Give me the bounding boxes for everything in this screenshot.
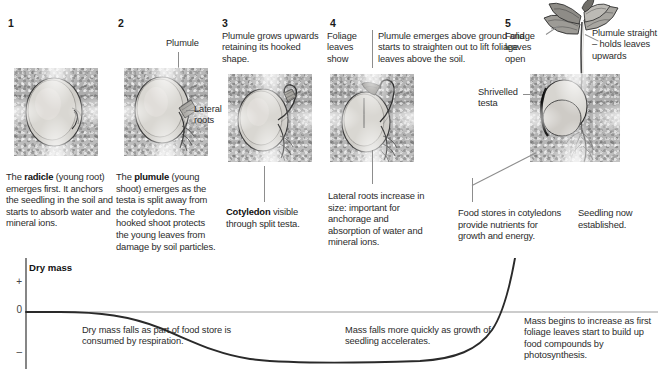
germination-diagram: 1 The radicle (young root) emerges first… — [0, 0, 658, 369]
stage-1-illustration — [14, 68, 98, 156]
callout-lateral-roots: Lateral roots — [194, 104, 226, 127]
dry-mass-chart: Dry mass + 0 – Dry mass falls as part of… — [0, 258, 658, 369]
callout-shrivelled-testa: Shrivelled testa — [478, 87, 524, 110]
callout-plumule-straight: Plumule straight – holds leaves upwards — [592, 28, 658, 62]
stage-1-description: The radicle (young root) emerges first. … — [6, 171, 114, 229]
stage-4-illustration — [330, 74, 414, 162]
leader-line-food-stores — [472, 152, 537, 186]
stage-4-description: Lateral roots increase in size: importan… — [328, 190, 432, 248]
stage-3-header: Plumule grows upwards retaining its hook… — [222, 31, 322, 65]
stage-5-description: Food stores in cotyledons provide nutrie… — [458, 207, 566, 242]
leader-line-stage-4-divider — [372, 30, 373, 68]
stage-5-illustration — [530, 74, 620, 162]
stage-5-number: 5 — [505, 18, 511, 29]
seedling-established-note: Seedling now established. — [578, 207, 658, 230]
stage-3-illustration — [228, 74, 312, 162]
chart-annotation-1: Dry mass falls as part of food store is … — [82, 325, 272, 348]
leader-line-lateral-roots-4 — [372, 150, 373, 184]
stage-2-description: The plumule (young shoot) emerges as the… — [116, 171, 220, 252]
stage-4-header-foliage: Foliage leaves show — [327, 31, 363, 65]
stage-2-number: 2 — [118, 18, 124, 29]
stage-1-number: 1 — [8, 18, 14, 29]
chart-annotation-3: Mass begins to increase as first foliage… — [524, 316, 658, 362]
stage-3-number: 3 — [222, 18, 228, 29]
chart-annotation-2: Mass falls more quickly as growth of see… — [345, 325, 505, 348]
leader-line-food-stores-vert — [472, 178, 473, 202]
callout-plumule: Plumule — [166, 38, 199, 49]
stage-3-description: Cotyledon visible through split testa. — [226, 206, 322, 229]
leader-line-cotyledon — [264, 166, 265, 202]
stage-4-number: 4 — [330, 18, 336, 29]
